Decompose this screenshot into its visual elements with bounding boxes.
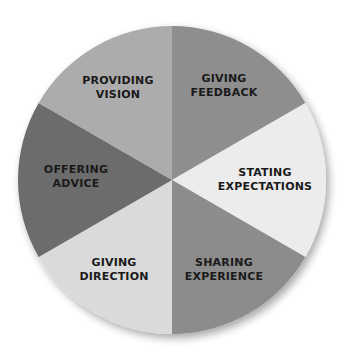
segment-label-stating-expectations: STATINGEXPECTATIONS [218, 166, 312, 194]
label-line-2: EXPECTATIONS [218, 180, 312, 194]
label-line-1: STATING [218, 166, 312, 180]
label-line-2: VISION [82, 88, 153, 102]
label-line-2: FEEDBACK [191, 86, 258, 100]
label-line-1: GIVING [191, 72, 258, 86]
label-line-2: ADVICE [44, 177, 108, 191]
segment-label-providing-vision: PROVIDINGVISION [82, 74, 153, 102]
segment-label-offering-advice: OFFERINGADVICE [44, 163, 108, 191]
label-line-1: OFFERING [44, 163, 108, 177]
label-line-2: DIRECTION [79, 270, 148, 284]
label-line-1: PROVIDING [82, 74, 153, 88]
segment-label-giving-direction: GIVINGDIRECTION [79, 256, 148, 284]
segment-label-giving-feedback: GIVINGFEEDBACK [191, 72, 258, 100]
label-line-1: SHARING [185, 256, 263, 270]
label-line-1: GIVING [79, 256, 148, 270]
label-line-2: EXPERIENCE [185, 270, 263, 284]
segment-label-sharing-experience: SHARINGEXPERIENCE [185, 256, 263, 284]
